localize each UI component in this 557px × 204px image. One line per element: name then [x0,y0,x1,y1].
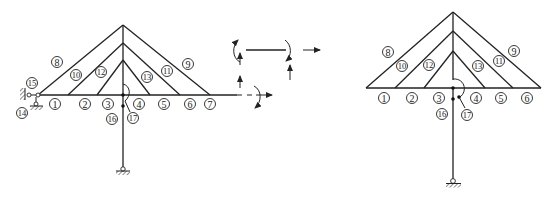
svg-text:11: 11 [163,66,171,76]
svg-text:12: 12 [97,67,106,77]
left-member-labels: 1 2 3 4 5 6 7 8 9 10 11 12 13 14 15 16 1… [17,57,216,125]
label-3: 3 [434,93,445,104]
svg-text:15: 15 [28,78,37,88]
svg-text:14: 14 [18,108,27,118]
joint-dot [451,97,455,101]
label-1: 1 [50,99,61,110]
svg-text:9: 9 [512,46,517,57]
link-pin [27,93,31,97]
left-structure: 1 2 3 4 5 6 7 8 9 10 11 12 13 14 15 16 1… [17,25,238,175]
svg-text:10: 10 [72,70,81,80]
roller-pin [34,102,38,106]
label-11: 11 [162,66,173,77]
column-support [116,167,130,175]
label-17: 17 [128,113,139,124]
label-15: 15 [27,78,38,89]
label-14: 14 [17,108,28,119]
svg-text:8: 8 [386,47,391,58]
rafter-8 [366,12,453,88]
svg-text:3: 3 [437,93,442,104]
svg-text:5: 5 [162,99,167,110]
moment-ccw-icon [234,40,240,62]
label-10: 10 [71,70,82,81]
svg-text:5: 5 [499,93,504,104]
svg-text:6: 6 [525,93,530,104]
svg-text:4: 4 [474,93,479,104]
label-4: 4 [471,93,482,104]
label-1: 1 [379,93,390,104]
joint-dot [451,86,455,90]
right-structure: 1 2 3 4 5 6 8 9 10 11 12 13 16 17 [366,12,541,188]
label-12: 12 [424,60,435,71]
label-17: 17 [462,110,473,121]
spring-17-lead [125,101,130,112]
structural-diagram: 1 2 3 4 5 6 7 8 9 10 11 12 13 14 15 16 1… [0,0,557,204]
svg-text:11: 11 [495,56,503,66]
svg-text:16: 16 [438,109,447,119]
label-10: 10 [397,61,408,72]
label-5: 5 [496,93,507,104]
svg-text:7: 7 [208,99,213,110]
svg-text:2: 2 [410,93,415,104]
svg-text:12: 12 [425,60,434,70]
label-8: 8 [52,57,63,68]
svg-text:9: 9 [186,59,191,70]
label-2: 2 [407,93,418,104]
svg-text:17: 17 [463,110,472,120]
rafter-9 [123,25,210,95]
svg-text:6: 6 [188,99,193,110]
moment-cw-icon [254,86,260,108]
wall-hatch [20,88,25,100]
label-16: 16 [437,109,448,120]
spring-17-lead [459,97,465,108]
label-12: 12 [96,67,107,78]
label-9: 9 [183,59,194,70]
label-3: 3 [103,99,114,110]
svg-text:10: 10 [398,61,407,71]
svg-text:1: 1 [53,99,58,110]
joint-dot [121,104,125,108]
label-16: 16 [107,114,118,125]
label-8: 8 [383,47,394,58]
svg-text:4: 4 [137,99,142,110]
rotational-spring [123,84,129,101]
label-7: 7 [205,99,216,110]
label-9: 9 [509,46,520,57]
svg-text:3: 3 [106,99,111,110]
joint-dot [121,93,125,97]
label-11: 11 [494,56,505,67]
label-13: 13 [473,61,484,72]
label-5: 5 [159,99,170,110]
rafter-10 [68,43,123,95]
ground-hatch [30,106,43,110]
label-6: 6 [185,99,196,110]
left-support [20,88,43,110]
free-body-diagram [234,40,320,108]
svg-text:16: 16 [108,114,117,124]
svg-text:17: 17 [129,113,138,123]
rafter-8 [38,25,123,95]
label-13: 13 [142,72,153,83]
column-support [446,179,461,188]
label-4: 4 [134,99,145,110]
link-pin [36,93,40,97]
label-6: 6 [522,93,533,104]
svg-text:13: 13 [143,72,152,82]
svg-text:8: 8 [55,57,60,68]
svg-text:1: 1 [382,93,387,104]
label-2: 2 [80,99,91,110]
rafter-9 [453,12,541,88]
svg-text:13: 13 [474,61,483,71]
svg-text:2: 2 [83,99,88,110]
